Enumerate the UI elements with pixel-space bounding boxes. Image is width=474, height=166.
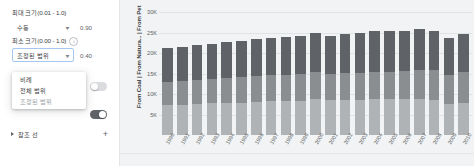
bar-segment-from-natural-gas[interactable] <box>281 75 292 101</box>
bar-segment-from-natural-gas[interactable] <box>236 77 247 103</box>
bar-column[interactable] <box>338 4 353 135</box>
bar-segment-from-coal[interactable] <box>444 104 455 135</box>
bar-column[interactable] <box>456 4 471 135</box>
bar-segment-from-coal[interactable] <box>162 105 173 135</box>
stacked-bar[interactable] <box>369 31 380 135</box>
max-size-value[interactable]: 0.90 <box>80 24 100 31</box>
bar-segment-from-coal[interactable] <box>281 101 292 135</box>
bar-column[interactable] <box>190 4 205 135</box>
bar-column[interactable] <box>293 4 308 135</box>
bar-segment-from-natural-gas[interactable] <box>310 72 321 99</box>
stacked-bar[interactable] <box>295 36 306 135</box>
bar-segment-from-petroleum[interactable] <box>429 31 440 70</box>
bar-column[interactable] <box>412 4 427 135</box>
bar-segment-from-coal[interactable] <box>429 100 440 135</box>
bar-segment-from-petroleum[interactable] <box>251 39 262 76</box>
stacked-bar[interactable] <box>340 34 351 135</box>
bar-column[interactable] <box>160 4 175 135</box>
bar-column[interactable] <box>279 4 294 135</box>
bar-column[interactable] <box>204 4 219 135</box>
bar-segment-from-natural-gas[interactable] <box>458 72 469 103</box>
stacked-bar[interactable] <box>281 37 292 135</box>
bar-segment-from-petroleum[interactable] <box>192 45 203 80</box>
bar-segment-from-petroleum[interactable] <box>221 42 232 78</box>
bar-segment-from-natural-gas[interactable] <box>340 73 351 100</box>
bar-segment-from-coal[interactable] <box>399 99 410 135</box>
bar-segment-from-natural-gas[interactable] <box>369 72 380 99</box>
bar-segment-from-coal[interactable] <box>221 103 232 135</box>
min-size-select[interactable]: 조정된 범위 ▾ <box>12 48 74 62</box>
stacked-bar[interactable] <box>414 29 425 135</box>
bar-segment-from-petroleum[interactable] <box>355 33 366 72</box>
bar-segment-from-petroleum[interactable] <box>414 29 425 70</box>
bar-segment-from-petroleum[interactable] <box>162 48 173 82</box>
bar-segment-from-natural-gas[interactable] <box>192 80 203 104</box>
bar-segment-from-coal[interactable] <box>266 101 277 135</box>
menu-item-2[interactable]: 조정된 범위 <box>12 96 86 107</box>
bar-segment-from-coal[interactable] <box>177 105 188 135</box>
bar-segment-from-petroleum[interactable] <box>295 36 306 74</box>
bar-segment-from-coal[interactable] <box>340 100 351 135</box>
bar-segment-from-natural-gas[interactable] <box>251 76 262 102</box>
stacked-bar[interactable] <box>310 33 321 135</box>
bar-segment-from-coal[interactable] <box>236 103 247 135</box>
bar-column[interactable] <box>249 4 264 135</box>
bar-segment-from-petroleum[interactable] <box>325 36 336 74</box>
bar-segment-from-natural-gas[interactable] <box>429 70 440 99</box>
info-icon[interactable]: i <box>69 37 78 46</box>
stacked-bar[interactable] <box>192 45 203 135</box>
stacked-bar[interactable] <box>355 33 366 135</box>
add-icon[interactable]: + <box>103 130 109 138</box>
bar-column[interactable] <box>382 4 397 135</box>
bar-segment-from-natural-gas[interactable] <box>295 74 306 101</box>
bar-segment-from-coal[interactable] <box>192 104 203 135</box>
bar-segment-from-petroleum[interactable] <box>266 38 277 76</box>
bar-column[interactable] <box>397 4 412 135</box>
bar-segment-from-coal[interactable] <box>295 101 306 135</box>
bar-column[interactable] <box>367 4 382 135</box>
stacked-bar[interactable] <box>429 31 440 135</box>
bar-segment-from-petroleum[interactable] <box>444 38 455 75</box>
stacked-bar[interactable] <box>458 34 469 135</box>
bar-segment-from-natural-gas[interactable] <box>221 78 232 103</box>
bar-segment-from-coal[interactable] <box>251 102 262 135</box>
stacked-bar[interactable] <box>399 31 410 135</box>
bar-segment-from-natural-gas[interactable] <box>399 71 410 99</box>
bar-segment-from-natural-gas[interactable] <box>207 79 218 104</box>
bar-segment-from-petroleum[interactable] <box>310 33 321 72</box>
bar-segment-from-natural-gas[interactable] <box>355 73 366 100</box>
bar-segment-from-natural-gas[interactable] <box>325 74 336 100</box>
stacked-bar[interactable] <box>266 38 277 135</box>
toggle-upper[interactable] <box>90 82 107 91</box>
min-size-dropdown-menu[interactable]: 비례 전체 범위 조정된 범위 <box>12 72 86 109</box>
bar-segment-from-petroleum[interactable] <box>369 31 380 72</box>
bar-segment-from-coal[interactable] <box>310 99 321 135</box>
stacked-bar[interactable] <box>177 47 188 135</box>
bar-segment-from-petroleum[interactable] <box>236 41 247 77</box>
bar-segment-from-natural-gas[interactable] <box>414 70 425 99</box>
bar-segment-from-coal[interactable] <box>369 99 380 135</box>
bar-segment-from-coal[interactable] <box>355 100 366 135</box>
bar-segment-from-petroleum[interactable] <box>458 34 469 72</box>
bar-segment-from-petroleum[interactable] <box>340 34 351 73</box>
bar-segment-from-natural-gas[interactable] <box>384 72 395 99</box>
bar-segment-from-petroleum[interactable] <box>281 37 292 75</box>
stacked-bar[interactable] <box>236 41 247 135</box>
bar-column[interactable] <box>323 4 338 135</box>
bar-segment-from-coal[interactable] <box>458 103 469 135</box>
bar-segment-from-natural-gas[interactable] <box>177 81 188 104</box>
bar-column[interactable] <box>234 4 249 135</box>
reference-line-section[interactable]: 참조 선 + <box>0 126 119 142</box>
bar-segment-from-coal[interactable] <box>325 100 336 135</box>
bar-segment-from-coal[interactable] <box>207 103 218 135</box>
bar-column[interactable] <box>353 4 368 135</box>
bar-segment-from-coal[interactable] <box>384 99 395 135</box>
toggle-lower[interactable] <box>90 110 107 119</box>
stacked-bar[interactable] <box>207 44 218 135</box>
bar-column[interactable] <box>441 4 456 135</box>
bar-column[interactable] <box>308 4 323 135</box>
stacked-bar[interactable] <box>384 31 395 135</box>
bar-segment-from-petroleum[interactable] <box>207 44 218 79</box>
bar-column[interactable] <box>264 4 279 135</box>
bar-segment-from-petroleum[interactable] <box>177 47 188 81</box>
